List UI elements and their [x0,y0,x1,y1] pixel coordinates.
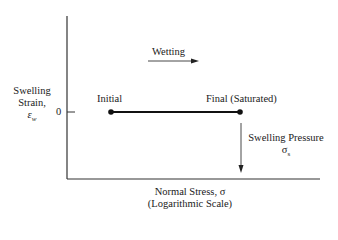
swelling-pressure-text: Swelling Pressure [246,132,326,144]
initial-point [108,109,114,115]
swelling-pressure-arrow-icon [239,123,244,173]
y-tick-zero-label: 0 [56,106,61,118]
final-point [237,109,243,115]
wetting-arrow-icon [148,59,199,64]
final-saturated-label: Final (Saturated) [206,93,277,105]
y-axis-label: Swelling Strain, εw [4,85,60,125]
swelling-pressure-symbol: σs [246,144,326,160]
y-axis-symbol: εw [4,109,60,125]
initial-label: Initial [97,93,122,105]
x-axis-label: Normal Stress, σ (Logarithmic Scale) [130,186,250,210]
x-axis-label-line1: Normal Stress, σ [130,186,250,198]
swelling-pressure-label: Swelling Pressure σs [246,132,326,160]
y-axis-label-line2: Strain, [4,97,60,109]
wetting-label: Wetting [152,46,185,58]
x-axis-label-line2: (Logarithmic Scale) [130,198,250,210]
y-axis-label-line1: Swelling [4,85,60,97]
